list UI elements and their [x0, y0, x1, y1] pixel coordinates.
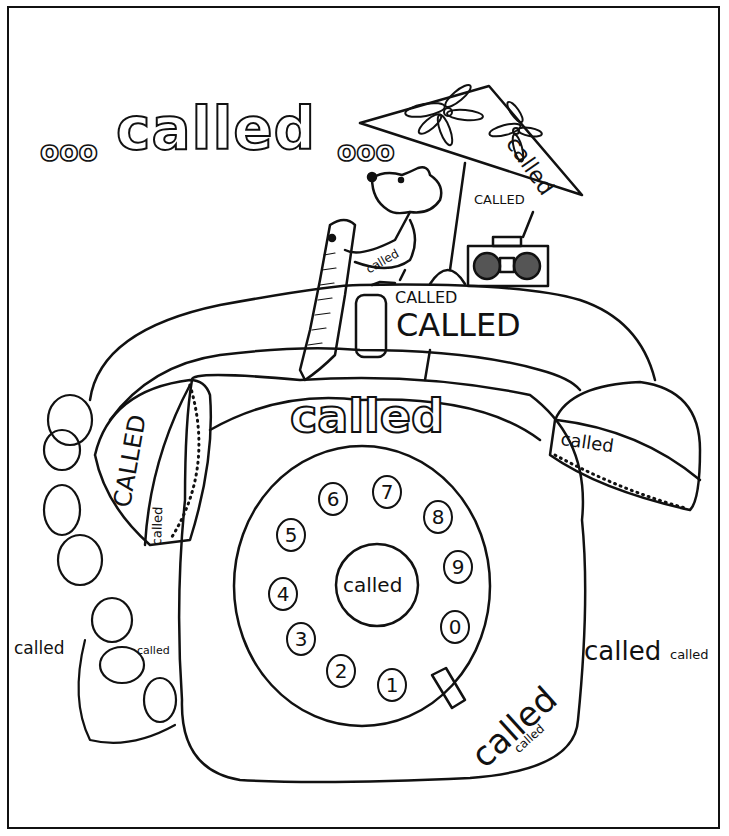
right-margin-small-label: called	[670, 648, 709, 661]
dial-digit-4: 4	[268, 577, 298, 611]
handset-small-label: CALLED	[395, 290, 457, 306]
dial-digit-2: 2	[326, 654, 356, 688]
title-word: called	[116, 100, 316, 158]
cord-large-label: called	[14, 640, 64, 657]
dial-digit-6: 6	[318, 482, 348, 516]
dog-icon	[345, 167, 441, 285]
handset-large-label: CALLED	[396, 309, 521, 341]
title-leading-dots: ooo	[40, 138, 98, 166]
dial-digit-0: 0	[440, 610, 470, 644]
right-margin-large-label: called	[584, 638, 661, 664]
dial-digit-1: 1	[377, 668, 407, 702]
radio-label: CALLED	[474, 193, 525, 206]
phone-body-outline-word: called	[290, 393, 444, 439]
dial-digit-3: 3	[286, 622, 316, 656]
cord-icon	[44, 395, 176, 743]
dial-digit-7: 7	[372, 475, 402, 509]
left-earpiece-small-label: called	[150, 506, 164, 545]
cord-small-label: called	[137, 645, 170, 656]
dial-center-label: called	[343, 575, 402, 595]
dial-digit-8: 8	[423, 500, 453, 534]
scroll-icon	[300, 220, 355, 380]
title-trailing-dots: ooo	[337, 138, 395, 166]
dial-digit-9: 9	[443, 550, 473, 584]
radio-icon	[468, 212, 548, 286]
dial-digit-5: 5	[276, 518, 306, 552]
